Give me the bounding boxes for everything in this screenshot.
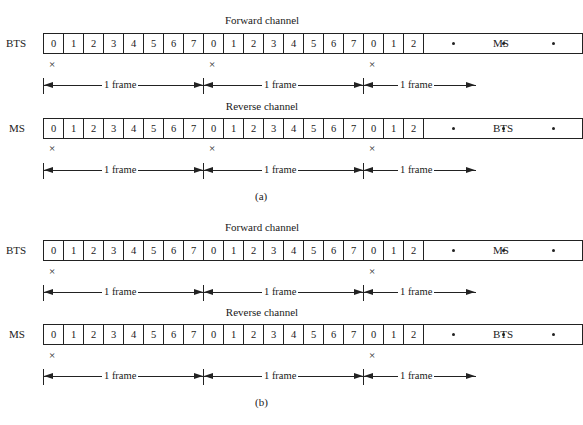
time-slot: 0 xyxy=(364,119,384,138)
dot-icon xyxy=(502,127,505,130)
time-slot-row: 0123456701234567012 xyxy=(43,33,583,54)
frame-label: 1 frame xyxy=(102,164,138,176)
time-slot: 7 xyxy=(344,325,364,344)
dot-icon xyxy=(552,42,555,45)
time-slot: 6 xyxy=(164,119,184,138)
time-slot: 0 xyxy=(204,241,224,260)
time-slot: 2 xyxy=(404,325,424,344)
time-slot: 2 xyxy=(244,241,264,260)
time-slot: 6 xyxy=(324,241,344,260)
arrow-left-icon xyxy=(204,82,213,88)
slot-x-mark: × xyxy=(369,350,375,361)
time-slot: 2 xyxy=(404,119,424,138)
time-slot: 2 xyxy=(84,119,104,138)
arrow-right-icon xyxy=(466,289,475,295)
arrow-right-icon xyxy=(194,289,203,295)
frame-label: 1 frame xyxy=(262,79,298,91)
time-slot: 0 xyxy=(204,119,224,138)
time-slot: 0 xyxy=(364,325,384,344)
channel-left-label: BTS xyxy=(6,240,26,260)
dot-icon xyxy=(452,127,455,130)
time-slot: 1 xyxy=(384,241,404,260)
continuation-ellipsis xyxy=(424,119,582,138)
arrow-left-icon xyxy=(204,373,213,379)
time-slot: 7 xyxy=(344,34,364,53)
slot-x-mark: × xyxy=(49,143,55,154)
time-slot: 4 xyxy=(124,34,144,53)
time-slot: 1 xyxy=(224,241,244,260)
time-slot: 3 xyxy=(264,119,284,138)
frame-label: 1 frame xyxy=(102,79,138,91)
time-slot: 5 xyxy=(304,325,324,344)
time-slot: 1 xyxy=(384,325,404,344)
time-slot: 7 xyxy=(184,119,204,138)
channel-title: Reverse channel xyxy=(0,306,524,318)
time-slot: 5 xyxy=(304,241,324,260)
time-slot: 4 xyxy=(284,119,304,138)
time-slot: 4 xyxy=(284,34,304,53)
time-slot: 3 xyxy=(104,325,124,344)
continuation-ellipsis xyxy=(424,325,582,344)
time-slot: 1 xyxy=(64,34,84,53)
arrow-right-icon xyxy=(466,373,475,379)
time-slot: 2 xyxy=(84,241,104,260)
time-slot: 6 xyxy=(164,241,184,260)
time-slot: 1 xyxy=(224,325,244,344)
time-slot: 0 xyxy=(44,34,64,53)
arrow-right-icon xyxy=(194,373,203,379)
time-slot: 4 xyxy=(124,241,144,260)
frame-label: 1 frame xyxy=(398,286,434,298)
time-slot: 1 xyxy=(64,325,84,344)
frame-label: 1 frame xyxy=(262,164,298,176)
dot-icon xyxy=(452,42,455,45)
arrow-left-icon xyxy=(44,373,53,379)
arrow-right-icon xyxy=(194,167,203,173)
time-slot: 4 xyxy=(124,119,144,138)
dot-icon xyxy=(502,333,505,336)
arrow-right-icon xyxy=(354,373,363,379)
time-slot-row: 0123456701234567012 xyxy=(43,240,583,261)
time-slot: 6 xyxy=(324,34,344,53)
continuation-ellipsis xyxy=(424,241,582,260)
time-slot: 2 xyxy=(244,325,264,344)
arrow-right-icon xyxy=(354,167,363,173)
slot-x-mark: × xyxy=(209,143,215,154)
time-slot: 1 xyxy=(224,119,244,138)
frame-label: 1 frame xyxy=(398,164,434,176)
time-slot: 1 xyxy=(64,119,84,138)
arrow-left-icon xyxy=(44,167,53,173)
time-slot: 0 xyxy=(204,325,224,344)
time-slot-row: 0123456701234567012 xyxy=(43,118,583,139)
dot-icon xyxy=(452,333,455,336)
channel-title: Forward channel xyxy=(0,221,524,233)
frame-label: 1 frame xyxy=(102,370,138,382)
time-slot: 1 xyxy=(384,34,404,53)
channel-title: Forward channel xyxy=(0,14,524,26)
dot-icon xyxy=(452,249,455,252)
time-slot-row: 0123456701234567012 xyxy=(43,324,583,345)
slot-x-mark: × xyxy=(209,59,215,70)
slot-x-mark: × xyxy=(49,350,55,361)
panel-caption: (a) xyxy=(255,190,267,202)
time-slot: 2 xyxy=(404,241,424,260)
time-slot: 5 xyxy=(144,34,164,53)
slot-x-mark: × xyxy=(49,266,55,277)
slot-x-mark: × xyxy=(369,59,375,70)
arrow-left-icon xyxy=(204,289,213,295)
channel-title: Reverse channel xyxy=(0,100,524,112)
time-slot: 4 xyxy=(284,241,304,260)
frame-label: 1 frame xyxy=(262,286,298,298)
time-slot: 3 xyxy=(104,119,124,138)
time-slot: 0 xyxy=(364,241,384,260)
time-slot: 0 xyxy=(44,325,64,344)
time-slot: 3 xyxy=(264,241,284,260)
time-slot: 2 xyxy=(244,119,264,138)
time-slot: 3 xyxy=(264,34,284,53)
time-slot: 0 xyxy=(364,34,384,53)
arrow-right-icon xyxy=(194,82,203,88)
time-slot: 1 xyxy=(384,119,404,138)
frame-label: 1 frame xyxy=(398,370,434,382)
arrow-right-icon xyxy=(466,82,475,88)
time-slot: 7 xyxy=(184,325,204,344)
time-slot: 7 xyxy=(344,119,364,138)
